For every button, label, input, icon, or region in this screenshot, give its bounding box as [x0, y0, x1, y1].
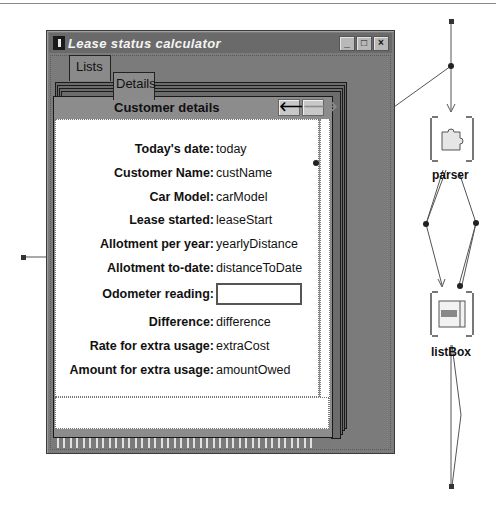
binding-ring — [278, 438, 286, 448]
field-value: amountOwed — [216, 363, 290, 377]
junction-dot[interactable] — [473, 220, 479, 226]
footer-area — [55, 397, 329, 429]
back-arrow-button[interactable]: 🡐 — [278, 99, 300, 116]
binding-ring — [96, 438, 104, 448]
field-label: Lease started: — [129, 213, 214, 227]
field-label: Allotment to-date: — [107, 261, 214, 275]
field-row: Customer Name:custName — [56, 166, 318, 184]
field-row: Amount for extra usage:amountOwed — [56, 363, 318, 381]
junction-dot[interactable] — [313, 160, 319, 166]
binding-ring — [57, 438, 65, 448]
listbox-icon — [432, 293, 472, 335]
listbox-node[interactable] — [430, 293, 474, 335]
field-value: custName — [216, 166, 272, 180]
field-label: Customer Name: — [114, 166, 214, 180]
field-label: Amount for extra usage: — [70, 363, 214, 377]
field-value: leaseStart — [216, 213, 272, 227]
tab-lists[interactable]: Lists — [69, 55, 111, 81]
field-row: Allotment to-date:distanceToDate — [56, 261, 318, 279]
binding-ring — [187, 438, 195, 448]
page-header: Customer details 🡐 🡒 — [54, 97, 332, 119]
junction-dot[interactable] — [457, 283, 463, 289]
minimize-button[interactable]: _ — [339, 36, 355, 51]
field-row: Allotment per year:yearlyDistance — [56, 237, 318, 255]
junction-dot[interactable] — [448, 63, 454, 69]
binding-ring — [83, 438, 91, 448]
tab-details[interactable]: Details — [113, 72, 155, 100]
field-label: Odometer reading: — [102, 287, 214, 301]
output-port[interactable] — [449, 484, 454, 489]
close-button[interactable]: × — [373, 36, 389, 51]
field-value: difference — [216, 315, 271, 329]
field-value: yearlyDistance — [216, 237, 298, 251]
field-row: Difference:difference — [56, 315, 318, 333]
binding-ring — [70, 438, 78, 448]
puzzle-piece-icon — [432, 118, 472, 160]
parser-node[interactable] — [430, 118, 474, 160]
binding-ring — [304, 438, 312, 448]
parser-label: parser — [432, 168, 469, 182]
field-row: Lease started:leaseStart — [56, 213, 318, 231]
field-label: Today's date: — [135, 142, 214, 156]
input-port[interactable] — [449, 19, 454, 24]
field-row: Odometer reading: — [56, 287, 318, 305]
field-label: Car Model: — [149, 190, 214, 204]
binding-ring — [135, 438, 143, 448]
page-title: Customer details — [114, 100, 219, 115]
field-value: carModel — [216, 190, 267, 204]
junction-dot[interactable] — [423, 221, 429, 227]
field-row: Car Model:carModel — [56, 190, 318, 208]
details-page: Customer details 🡐 🡒 Today's date:today … — [53, 96, 333, 438]
field-value: today — [216, 142, 247, 156]
field-row: Rate for extra usage:extraCost — [56, 339, 318, 357]
forward-arrow-button[interactable]: 🡒 — [302, 99, 324, 116]
field-label: Difference: — [149, 315, 214, 329]
app-icon — [53, 36, 65, 50]
binding-ring — [239, 438, 247, 448]
binding-ring — [252, 438, 260, 448]
binding-ring — [291, 438, 299, 448]
binding-ring — [109, 438, 117, 448]
binding-ring — [265, 438, 273, 448]
binding-ring — [226, 438, 234, 448]
field-value: distanceToDate — [216, 261, 302, 275]
binding-ring — [161, 438, 169, 448]
vertical-scrollbar[interactable] — [320, 119, 330, 419]
binding-ring — [148, 438, 156, 448]
left-port[interactable] — [21, 255, 26, 260]
binding-ring — [213, 438, 221, 448]
window-title: Lease status calculator — [68, 36, 221, 51]
details-form: Today's date:today Customer Name:custNam… — [55, 119, 319, 397]
field-label: Allotment per year: — [100, 237, 214, 251]
field-row: Today's date:today — [56, 142, 318, 160]
binding-ring — [174, 438, 182, 448]
binding-ring — [200, 438, 208, 448]
binding-ring — [122, 438, 130, 448]
odometer-input[interactable] — [216, 283, 302, 305]
field-label: Rate for extra usage: — [90, 339, 214, 353]
title-bar[interactable]: Lease status calculator _ □ × — [49, 33, 392, 53]
listbox-label: listBox — [431, 345, 471, 359]
maximize-button[interactable]: □ — [356, 36, 372, 51]
field-value: extraCost — [216, 339, 270, 353]
